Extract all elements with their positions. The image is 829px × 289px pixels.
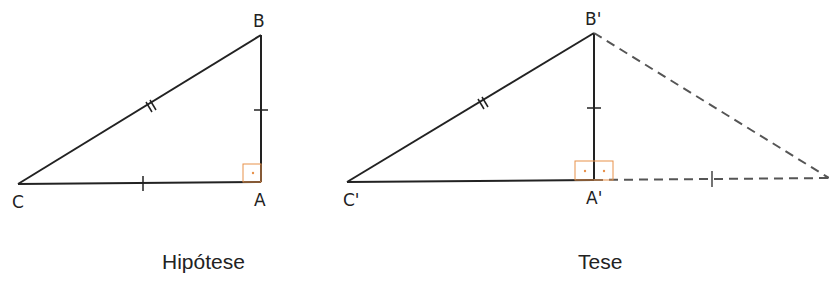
dashed-reflection <box>594 33 829 180</box>
side-cb <box>347 33 594 182</box>
diagram-canvas <box>0 0 829 289</box>
vertex-label-a-prime: A' <box>586 188 602 208</box>
side-ca <box>18 182 261 184</box>
caption-hipotese: Hipótese <box>162 250 245 274</box>
vertex-label-c: C <box>12 192 24 212</box>
triangle-hipotese <box>18 35 268 191</box>
vertex-label-c-prime: C' <box>343 190 360 210</box>
triangle-tese <box>347 33 601 182</box>
side-cb <box>18 35 261 184</box>
right-angle-marker <box>243 164 261 182</box>
vertex-label-b-prime: B' <box>585 9 601 29</box>
vertex-label-a: A <box>254 190 266 210</box>
side-ca <box>347 180 594 182</box>
caption-tese: Tese <box>578 250 622 274</box>
vertex-label-b: B <box>253 11 265 31</box>
